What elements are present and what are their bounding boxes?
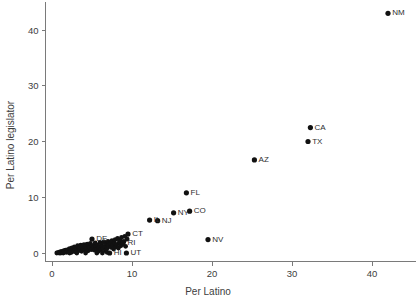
chart-canvas: 010203040010203040 NMCATXAZFLCONYNJILNVC… xyxy=(0,0,416,303)
x-tick-label: 0 xyxy=(49,268,54,279)
point-label-ny: NY xyxy=(178,208,190,217)
data-point-ri xyxy=(121,240,126,245)
x-tick-label: 20 xyxy=(207,268,218,279)
point-label-fl: FL xyxy=(191,188,201,197)
point-label-il: IL xyxy=(154,215,161,224)
y-tick-label: 0 xyxy=(33,248,38,259)
data-point xyxy=(74,251,79,256)
point-labels-group: NMCATXAZFLCONYNJILNVCTRIDEHIUT xyxy=(96,8,405,257)
y-tick-label: 10 xyxy=(28,192,39,203)
data-point-de xyxy=(89,236,94,241)
point-label-nv: NV xyxy=(212,235,224,244)
data-point-fl xyxy=(184,190,189,195)
y-tick-label: 40 xyxy=(28,25,39,36)
x-tick-label: 10 xyxy=(127,268,138,279)
data-point-nm xyxy=(385,11,390,16)
data-point-ct xyxy=(125,231,130,236)
data-point-tx xyxy=(305,139,310,144)
data-point xyxy=(94,251,99,256)
data-point xyxy=(100,251,105,256)
point-label-de: DE xyxy=(96,234,107,243)
y-tick-label: 20 xyxy=(28,136,39,147)
point-label-nj: NJ xyxy=(162,216,172,225)
data-point-ny xyxy=(171,210,176,215)
x-axis-title: Per Latino xyxy=(185,286,231,297)
y-tick-label: 30 xyxy=(28,80,39,91)
point-label-co: CO xyxy=(194,206,206,215)
point-label-az: AZ xyxy=(259,155,269,164)
data-point-il xyxy=(147,218,152,223)
point-label-ut: UT xyxy=(131,248,142,257)
point-label-nm: NM xyxy=(392,8,405,17)
point-label-tx: TX xyxy=(312,137,323,146)
scatter-plot-figure: 010203040010203040 NMCATXAZFLCONYNJILNVC… xyxy=(0,0,416,303)
data-point-nv xyxy=(205,237,210,242)
point-label-hi: HI xyxy=(114,248,122,257)
data-point-hi xyxy=(107,250,112,255)
data-point-ut xyxy=(124,250,129,255)
data-points-group xyxy=(54,11,390,256)
data-point xyxy=(67,251,72,256)
data-point-az xyxy=(252,157,257,162)
data-point xyxy=(83,251,88,256)
x-tick-label: 30 xyxy=(287,268,298,279)
y-axis-title: Per Latino legislator xyxy=(5,100,16,189)
x-tick-label: 40 xyxy=(367,268,378,279)
point-label-ca: CA xyxy=(315,123,327,132)
point-label-ri: RI xyxy=(127,238,135,247)
data-point-ca xyxy=(308,125,313,130)
